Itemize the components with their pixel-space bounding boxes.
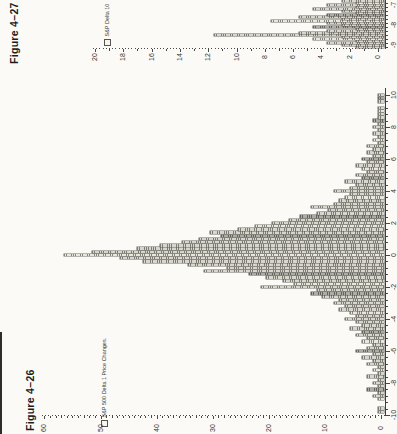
category-axis-tick	[386, 159, 390, 160]
histogram-bar	[378, 391, 384, 394]
category-axis-tick	[386, 261, 388, 262]
histogram-bar	[204, 270, 384, 273]
histogram-bar	[378, 113, 384, 116]
frequency-axis-label: 20	[265, 424, 273, 432]
histogram-bar	[272, 222, 384, 225]
frequency-axis-tick	[246, 416, 247, 418]
histogram-bar	[221, 235, 384, 238]
frequency-axis-tick	[364, 416, 365, 418]
histogram-bar	[378, 385, 384, 388]
category-axis-tick	[386, 281, 388, 282]
histogram-bar	[266, 276, 384, 279]
histogram-bar	[300, 215, 384, 218]
histogram-bar	[367, 363, 384, 366]
frequency-axis-tick	[359, 416, 360, 418]
histogram-bar	[210, 231, 384, 234]
histogram-bar	[317, 212, 384, 215]
category-axis-tick	[386, 274, 388, 275]
histogram-bar	[362, 331, 384, 334]
frequency-axis-tick	[162, 416, 163, 418]
category-axis-tick	[386, 108, 388, 109]
category-axis-tick	[386, 409, 388, 410]
category-axis-tick	[386, 101, 388, 102]
frequency-axis-tick	[263, 416, 264, 418]
category-axis-tick	[386, 293, 388, 294]
histogram-bar	[373, 119, 384, 122]
frequency-axis-tick	[258, 416, 259, 418]
category-axis-tick	[386, 242, 388, 243]
category-axis-tick	[386, 319, 390, 320]
histogram-bar	[317, 289, 384, 292]
frequency-axis-tick	[84, 416, 85, 418]
frequency-axis-label: 0	[377, 426, 385, 430]
category-axis-tick	[386, 300, 388, 301]
category-axis-tick	[386, 287, 390, 288]
category-axis-tick	[386, 95, 390, 96]
histogram-bar	[373, 132, 384, 135]
histogram-bar	[373, 395, 384, 398]
category-axis-label: -8	[390, 380, 397, 386]
histogram-bar	[160, 244, 384, 247]
histogram-bar	[188, 263, 384, 266]
histogram-bar	[373, 369, 384, 372]
frequency-axis-tick	[314, 416, 315, 418]
frequency-axis-tick	[291, 416, 292, 418]
frequency-axis-label: 60	[40, 424, 48, 432]
frequency-axis-tick	[218, 416, 219, 418]
histogram-bar	[356, 334, 384, 337]
histogram-bar	[350, 193, 384, 196]
histogram-bar	[137, 247, 384, 250]
histogram-bar	[373, 155, 384, 158]
category-axis-tick	[386, 268, 388, 269]
histogram-bar	[350, 187, 384, 190]
histogram-bar	[227, 267, 384, 270]
category-axis-line	[385, 88, 386, 416]
category-axis-tick	[386, 313, 388, 314]
frequency-axis-tick	[50, 416, 51, 418]
frequency-axis-tick	[381, 416, 382, 419]
histogram-bar	[378, 135, 384, 138]
frequency-axis-tick	[224, 416, 225, 418]
frequency-axis-tick	[117, 416, 118, 418]
scanned-page: Figure 4–27 Figure 4–26 S&P Delta 10 S&P…	[0, 0, 397, 434]
histogram-bar	[339, 299, 384, 302]
histogram-bar	[378, 123, 384, 126]
histogram-bar	[92, 251, 384, 254]
category-axis-tick	[386, 229, 388, 230]
frequency-axis-tick	[342, 416, 343, 418]
histogram-bar	[322, 295, 384, 298]
histogram-bar	[356, 350, 384, 353]
histogram-bar	[378, 142, 384, 145]
frequency-axis-tick	[123, 416, 124, 418]
histogram-bar	[334, 302, 384, 305]
histogram-bar	[378, 110, 384, 113]
category-axis-label: 4	[390, 189, 397, 193]
histogram-bar	[350, 327, 384, 330]
frequency-axis-tick	[286, 416, 287, 418]
histogram-bar	[345, 180, 384, 183]
frequency-axis-tick	[325, 416, 326, 419]
frequency-axis-tick	[140, 416, 141, 418]
histogram-bar	[373, 382, 384, 385]
category-axis-tick	[386, 223, 390, 224]
histogram-bar	[289, 219, 384, 222]
category-axis-label: -10	[390, 410, 397, 420]
histogram-bar	[339, 308, 384, 311]
histogram-bar	[367, 171, 384, 174]
frequency-axis-tick	[145, 416, 146, 418]
histogram-bar	[261, 286, 384, 289]
category-axis-tick	[386, 178, 388, 179]
category-axis-tick	[386, 345, 388, 346]
histogram-bar	[334, 190, 384, 193]
category-axis-label: -6	[390, 348, 397, 354]
histogram-bar	[339, 199, 384, 202]
frequency-axis-tick	[134, 416, 135, 418]
category-axis-tick	[386, 351, 390, 352]
histogram-bar	[362, 324, 384, 327]
category-axis-label: -4	[390, 316, 397, 322]
category-axis-label: 10	[390, 91, 397, 99]
category-axis-tick	[386, 133, 388, 134]
histogram-bar	[345, 196, 384, 199]
frequency-axis-tick	[72, 416, 73, 418]
histogram-bar	[378, 366, 384, 369]
